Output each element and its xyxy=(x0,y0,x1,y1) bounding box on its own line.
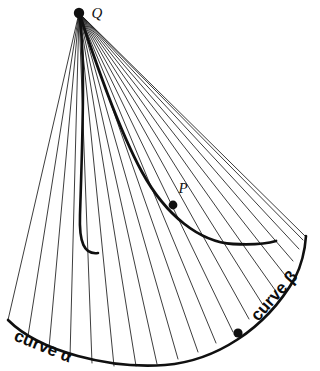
point-label-q: Q xyxy=(92,5,103,21)
point-marker-p xyxy=(169,201,178,210)
geometry-figure: Q P curve α curve β xyxy=(0,0,320,371)
figure-background xyxy=(0,0,320,371)
point-marker-b xyxy=(233,328,242,337)
point-label-p: P xyxy=(177,180,187,196)
point-marker-q xyxy=(74,8,84,18)
diagram-canvas: Q P curve α curve β xyxy=(0,0,320,371)
